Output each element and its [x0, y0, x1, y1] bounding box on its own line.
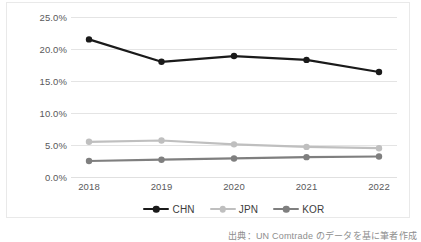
x-axis: 20182019202020212022: [71, 181, 397, 195]
data-point: [86, 139, 92, 145]
data-point: [376, 153, 382, 159]
data-point: [376, 69, 382, 75]
y-tick-label: 20.0%: [15, 44, 67, 55]
y-tick-label: 25.0%: [15, 12, 67, 23]
data-point: [376, 145, 382, 151]
legend-item-jpn[interactable]: JPN: [210, 204, 259, 215]
gridline: [71, 177, 397, 178]
y-tick-label: 0.0%: [15, 172, 67, 183]
plot-area: [71, 17, 397, 177]
series-kor: [86, 153, 382, 164]
series-chn: [86, 36, 382, 75]
chart-container: 0.0%5.0%10.0%15.0%20.0%25.0% 20182019202…: [6, 2, 410, 218]
data-point: [303, 57, 309, 63]
chart-legend: CHNJPNKOR: [71, 201, 397, 217]
legend-marker-icon: [210, 205, 236, 214]
x-tick-label: 2018: [78, 181, 100, 192]
data-point: [303, 154, 309, 160]
data-point: [231, 155, 237, 161]
x-tick-label: 2020: [223, 181, 245, 192]
y-axis: 0.0%5.0%10.0%15.0%20.0%25.0%: [15, 17, 67, 177]
legend-label: JPN: [239, 204, 259, 215]
data-point: [158, 59, 164, 65]
x-tick-label: 2019: [151, 181, 173, 192]
source-note: 出典：UN Comtrade のデータを基に筆者作成: [228, 229, 417, 242]
data-point: [86, 158, 92, 164]
x-tick-label: 2022: [368, 181, 390, 192]
series-jpn: [86, 137, 382, 151]
legend-marker-icon: [273, 205, 299, 214]
y-tick-label: 10.0%: [15, 108, 67, 119]
data-point: [158, 137, 164, 143]
y-tick-label: 5.0%: [15, 140, 67, 151]
x-tick-label: 2021: [296, 181, 318, 192]
data-point: [158, 157, 164, 163]
legend-item-kor[interactable]: KOR: [273, 204, 324, 215]
data-point: [86, 36, 92, 42]
data-point: [303, 144, 309, 150]
data-point: [231, 141, 237, 147]
y-tick-label: 15.0%: [15, 76, 67, 87]
legend-item-chn[interactable]: CHN: [143, 204, 194, 215]
legend-label: KOR: [302, 204, 324, 215]
legend-marker-icon: [143, 205, 169, 214]
legend-label: CHN: [172, 204, 194, 215]
series-layer: [71, 17, 397, 177]
data-point: [231, 53, 237, 59]
